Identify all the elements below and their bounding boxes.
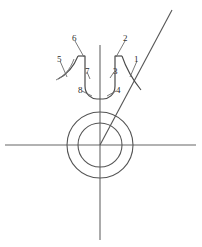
callout-8: 8 bbox=[78, 86, 83, 95]
callout-6: 6 bbox=[72, 34, 77, 43]
leader-line-6 bbox=[75, 41, 84, 57]
figure-canvas: 1 2 3 4 5 6 7 8 bbox=[0, 0, 202, 247]
callout-3: 3 bbox=[113, 67, 118, 76]
leader-line-8 bbox=[82, 91, 92, 96]
leader-line-2 bbox=[116, 41, 125, 57]
callout-4: 4 bbox=[116, 86, 121, 95]
callout-1: 1 bbox=[134, 55, 139, 64]
callout-5: 5 bbox=[57, 55, 62, 64]
callout-2: 2 bbox=[123, 34, 128, 43]
technical-drawing-svg bbox=[0, 0, 202, 247]
callout-7: 7 bbox=[85, 67, 90, 76]
